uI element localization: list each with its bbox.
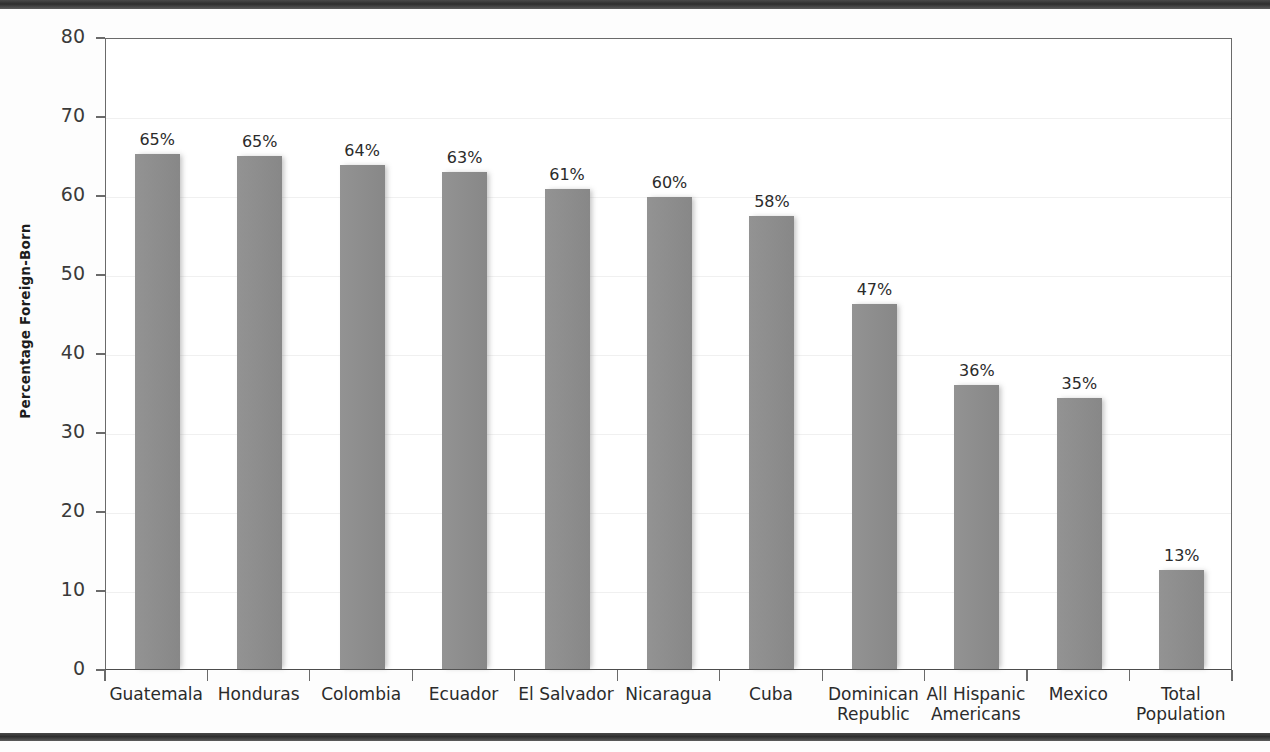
bar-value-label: 13% <box>1137 546 1227 565</box>
x-axis-tick <box>514 670 515 681</box>
bar <box>647 197 692 669</box>
bar <box>954 385 999 669</box>
bar <box>1159 570 1204 669</box>
x-axis-tick <box>924 670 925 681</box>
bar <box>135 154 180 669</box>
chart-figure: Percentage Foreign-Born 0102030405060708… <box>0 0 1270 752</box>
x-axis-tick <box>1231 670 1232 681</box>
bar-value-label: 58% <box>727 192 817 211</box>
y-axis-tick <box>96 116 105 117</box>
x-axis-tick <box>1026 670 1027 681</box>
x-axis-tick <box>412 670 413 681</box>
bar-value-label: 65% <box>215 132 305 151</box>
bar-value-label: 63% <box>420 148 510 167</box>
bar <box>442 172 487 669</box>
y-axis-tick-label: 10 <box>25 580 85 599</box>
y-axis-tick-label: 50 <box>25 264 85 283</box>
bar <box>1057 398 1102 669</box>
bar-value-label: 65% <box>112 130 202 149</box>
bar-value-label: 64% <box>317 141 407 160</box>
y-axis-tick <box>96 432 105 433</box>
y-axis-tick <box>96 274 105 275</box>
y-axis-tick-label: 80 <box>25 27 85 46</box>
y-axis-tick <box>96 195 105 196</box>
x-axis-tick <box>207 670 208 681</box>
top-rule <box>0 0 1270 9</box>
y-axis-tick-label: 20 <box>25 501 85 520</box>
bar-value-label: 61% <box>522 165 612 184</box>
x-axis-category-line: Total <box>1111 684 1251 704</box>
x-axis-tick <box>104 670 105 681</box>
y-axis-tick-label: 30 <box>25 422 85 441</box>
bar <box>340 165 385 669</box>
bottom-rule <box>0 733 1270 741</box>
gridline <box>106 118 1231 119</box>
bar-value-label: 60% <box>625 173 715 192</box>
x-axis-tick <box>1129 670 1130 681</box>
x-axis-tick <box>719 670 720 681</box>
y-axis-tick <box>96 511 105 512</box>
x-axis-category-line: Americans <box>906 704 1046 724</box>
bar-value-label: 36% <box>932 361 1022 380</box>
bar <box>237 156 282 670</box>
y-axis-tick <box>96 590 105 591</box>
y-axis-tick-label: 40 <box>25 343 85 362</box>
bar <box>545 189 590 669</box>
x-axis-tick <box>822 670 823 681</box>
y-axis-tick <box>96 37 105 38</box>
y-axis-tick-label: 70 <box>25 106 85 125</box>
x-axis-category-label: TotalPopulation <box>1111 684 1251 724</box>
bar <box>749 216 794 669</box>
y-axis-title: Percentage Foreign-Born <box>17 201 33 441</box>
x-axis-category-line: Population <box>1111 704 1251 724</box>
bar-value-label: 35% <box>1034 374 1124 393</box>
x-axis-tick <box>617 670 618 681</box>
y-axis-tick <box>96 353 105 354</box>
x-axis-tick <box>309 670 310 681</box>
plot-area: 65%65%64%63%61%60%58%47%36%35%13% <box>105 38 1232 670</box>
y-axis-tick-label: 0 <box>25 659 85 678</box>
bar-value-label: 47% <box>829 280 919 299</box>
y-axis-tick-label: 60 <box>25 185 85 204</box>
bar <box>852 304 897 669</box>
